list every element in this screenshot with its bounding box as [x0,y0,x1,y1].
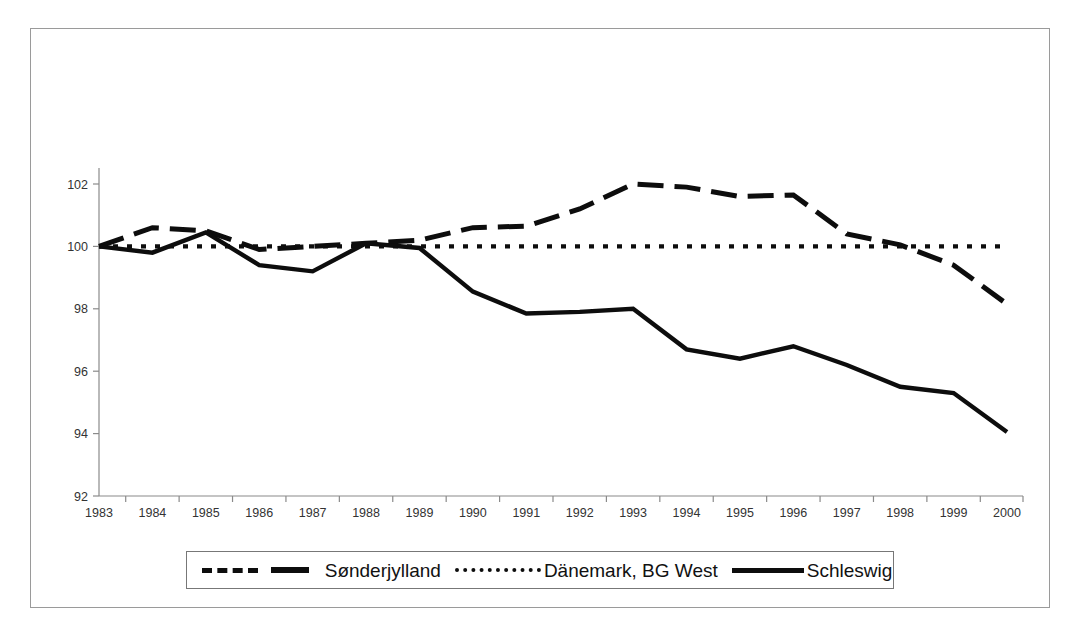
legend-swatch-dashed-icon [202,568,258,573]
chart-legend: Sønderjylland Dänemark, BG West Schleswi… [186,551,894,589]
legend-item-danemark-bg-west: Dänemark, BG West [441,561,718,580]
legend-item-sonderjylland: Sønderjylland [188,561,441,580]
legend-label-schleswig: Schleswig [807,561,893,580]
legend-swatch-dotted-icon [455,568,541,572]
chart-frame [30,28,1050,608]
legend-swatch-solid-icon [732,568,804,573]
legend-item-schleswig: Schleswig [718,561,893,580]
legend-label-sonderjylland: Sønderjylland [325,561,441,580]
legend-swatch-dash-segment-icon [271,567,309,573]
legend-label-danemark-bg-west: Dänemark, BG West [544,561,718,580]
